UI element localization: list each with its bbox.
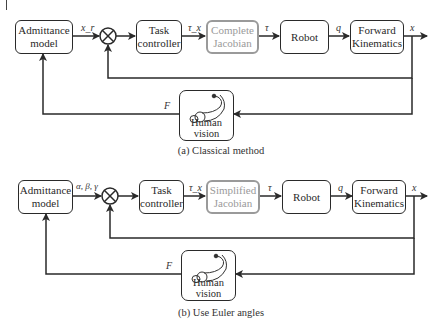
admittance-model-block-a: Admittance model: [15, 20, 73, 54]
block-label: Robot: [293, 191, 320, 204]
human-vision-label: Human vision: [182, 277, 235, 299]
signal-x-label: x: [410, 22, 414, 33]
admittance-model-block-b: Admittance model: [18, 180, 73, 214]
signal-f-label: F: [164, 100, 170, 111]
human-vision-block-b: Human vision: [181, 250, 236, 301]
block-label: Forward Kinematics: [351, 24, 403, 50]
signal-f-label: F: [166, 260, 172, 271]
block-label: Robot: [291, 31, 318, 44]
block-label: Admittance model: [19, 184, 72, 210]
signal-euler-angles-label: α, β, γ: [76, 181, 98, 191]
signal-tau-label: τ: [268, 182, 272, 193]
signal-tau-label: τ: [265, 22, 269, 33]
task-controller-block-a: Task controller: [136, 20, 182, 54]
block-label: Admittance model: [16, 24, 72, 50]
signal-tau-x-label: τ_x: [188, 22, 201, 33]
forward-kinematics-block-a: Forward Kinematics: [350, 20, 404, 54]
signal-q-label: q: [336, 22, 341, 33]
human-vision-block-a: Human vision: [179, 90, 234, 141]
caption-b: (b) Use Euler angles: [0, 307, 442, 318]
robot-block-b: Robot: [282, 180, 331, 214]
caption-a: (a) Classical method: [0, 145, 442, 156]
block-label: Simplified Jacobian: [208, 184, 258, 210]
task-controller-block-b: Task controller: [139, 180, 184, 214]
block-label: Task controller: [140, 184, 183, 210]
signal-tau-x-label: τ_x: [189, 182, 202, 193]
human-vision-label: Human vision: [180, 117, 233, 139]
complete-jacobian-block: Complete Jacobian: [206, 20, 259, 54]
block-label: Forward Kinematics: [353, 184, 405, 210]
block-label: Task controller: [137, 24, 181, 50]
robot-block-a: Robot: [280, 20, 329, 54]
block-label: Complete Jacobian: [208, 24, 257, 50]
signal-x-label: x: [412, 182, 416, 193]
signal-xr-label: x_r: [81, 22, 94, 33]
forward-kinematics-block-b: Forward Kinematics: [352, 180, 406, 214]
signal-q-label: q: [338, 182, 343, 193]
simplified-jacobian-block: Simplified Jacobian: [206, 180, 260, 214]
